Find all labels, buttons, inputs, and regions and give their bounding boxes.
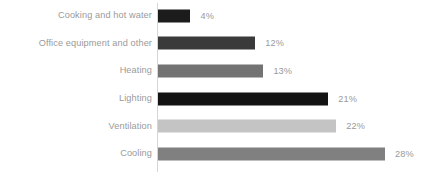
bar-track: [158, 9, 190, 22]
bar-rect[interactable]: [158, 37, 255, 50]
bar-value-label: 22%: [346, 121, 365, 132]
bar-category-label: Cooking and hot water: [0, 10, 152, 21]
bars-area: Cooking and hot water4%Office equipment …: [0, 0, 437, 175]
bar-category-label: Office equipment and other: [0, 38, 152, 49]
bar-rect[interactable]: [158, 64, 263, 77]
bar-row: Cooking and hot water4%: [0, 2, 437, 30]
bar-track: [158, 37, 255, 50]
bar-value-label: 4%: [200, 10, 213, 21]
bar-category-label: Cooling: [0, 148, 152, 159]
bar-track: [158, 147, 385, 160]
bar-row: Cooling28%: [0, 140, 437, 168]
bar-value-label: 13%: [273, 65, 292, 76]
bar-track: [158, 92, 328, 105]
bar-row: Heating13%: [0, 57, 437, 85]
bar-rect[interactable]: [158, 9, 190, 22]
bar-value-label: 28%: [395, 148, 414, 159]
bar-row: Ventilation22%: [0, 112, 437, 140]
bar-category-label: Lighting: [0, 93, 152, 104]
bar-chart: Cooking and hot water4%Office equipment …: [0, 0, 437, 175]
bar-category-label: Heating: [0, 65, 152, 76]
bar-rect[interactable]: [158, 147, 385, 160]
bar-track: [158, 120, 336, 133]
bar-value-label: 21%: [338, 93, 357, 104]
bar-row: Office equipment and other12%: [0, 30, 437, 58]
bar-value-label: 12%: [265, 38, 284, 49]
bar-row: Lighting21%: [0, 85, 437, 113]
bar-category-label: Ventilation: [0, 121, 152, 132]
bar-rect[interactable]: [158, 92, 328, 105]
bar-track: [158, 64, 263, 77]
bar-rect[interactable]: [158, 120, 336, 133]
